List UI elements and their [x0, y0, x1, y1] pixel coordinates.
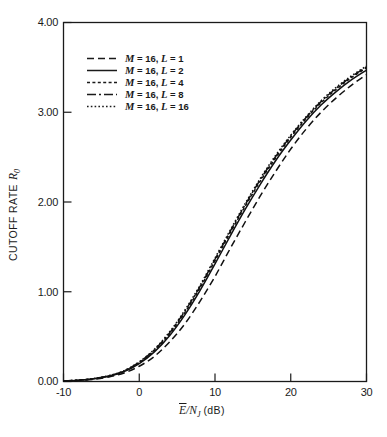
legend: M = 16, L = 1 M = 16, L = 2 M = 16, L = …	[87, 53, 189, 112]
svg-text:E/NJ(dB): E/NJ(dB)	[178, 404, 225, 419]
xtick-label-20: 20	[285, 386, 297, 398]
curve-L2	[64, 70, 367, 381]
x-axis-title-unit: (dB)	[203, 404, 224, 416]
legend-L4-eq2: = 4	[167, 77, 184, 88]
legend-L2-eq1: = 16,	[134, 65, 161, 76]
legend-L16-eq2: = 16	[167, 101, 188, 112]
xtick-label-0: 0	[136, 386, 142, 398]
svg-text:CUTOFF RATER0: CUTOFF RATER0	[7, 169, 22, 261]
legend-L1-M: M	[124, 53, 135, 64]
legend-label-L2: M = 16, L = 2	[124, 65, 184, 76]
legend-label-L16: M = 16, L = 16	[124, 101, 189, 112]
legend-L8-L: L	[160, 89, 167, 100]
legend-L4-M: M	[124, 77, 135, 88]
xtick-label-10: 10	[209, 386, 221, 398]
x-axis-title-sub: J	[197, 410, 201, 419]
curve-L16	[64, 66, 367, 381]
x-axis-title-energy: E	[178, 404, 186, 416]
cutoff-rate-plot: 4.00 3.00 2.00 1.00 0.00 -10 0 10 20 30 …	[0, 0, 387, 437]
x-axis-title: E/NJ(dB)	[178, 404, 225, 420]
legend-L2-M: M	[124, 65, 135, 76]
ytick-label-4: 4.00	[38, 16, 58, 28]
legend-L8-eq2: = 8	[167, 89, 183, 100]
xtick-label-30: 30	[361, 386, 373, 398]
ytick-label-1: 1.00	[38, 286, 58, 298]
legend-L4-eq1: = 16,	[134, 77, 161, 88]
legend-label-L4: M = 16, L = 4	[124, 77, 184, 88]
y-axis-title-text: CUTOFF RATE	[7, 184, 19, 261]
legend-L8-eq1: = 16,	[134, 89, 161, 100]
legend-L8-M: M	[124, 89, 135, 100]
legend-L16-eq1: = 16,	[134, 101, 161, 112]
curve-L8	[64, 67, 367, 381]
legend-L1-eq2: = 1	[167, 53, 184, 64]
legend-label-L1: M = 16, L = 1	[124, 53, 184, 64]
legend-label-L8: M = 16, L = 8	[124, 89, 184, 100]
curve-L4	[64, 68, 367, 381]
legend-L4-L: L	[160, 77, 167, 88]
plot-frame	[64, 23, 367, 382]
xtick-label-neg10: -10	[56, 386, 71, 398]
legend-L16-M: M	[124, 101, 135, 112]
y-axis-ticks	[64, 23, 72, 382]
legend-L1-L: L	[160, 53, 167, 64]
legend-L1-eq1: = 16,	[134, 53, 161, 64]
y-axis-title-subscript: 0	[13, 169, 22, 173]
chart-figure: 4.00 3.00 2.00 1.00 0.00 -10 0 10 20 30 …	[0, 0, 387, 437]
y-axis-title: CUTOFF RATER0	[7, 169, 22, 261]
curve-L1	[64, 75, 367, 381]
curve-group	[64, 66, 367, 381]
legend-L2-eq2: = 2	[167, 65, 183, 76]
ytick-label-3: 3.00	[38, 106, 58, 118]
legend-L2-L: L	[160, 65, 167, 76]
legend-L16-L: L	[160, 101, 167, 112]
y-axis-title-symbol: R	[7, 173, 19, 181]
ytick-label-2: 2.00	[38, 196, 58, 208]
